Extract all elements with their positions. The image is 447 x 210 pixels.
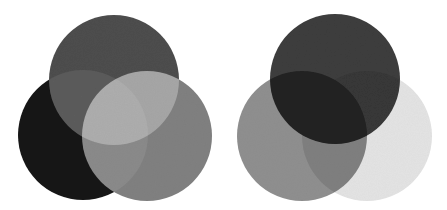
additive-color-mixing-diagram	[0, 0, 223, 210]
subtractive-color-mixing-diagram	[223, 0, 447, 210]
subtractive-circle-group	[237, 14, 432, 201]
additive-bottom-right-circle	[82, 71, 212, 201]
figure-canvas	[0, 0, 447, 210]
subtractive-bottom-right-circle	[302, 71, 432, 201]
additive-circle-group	[18, 15, 212, 201]
